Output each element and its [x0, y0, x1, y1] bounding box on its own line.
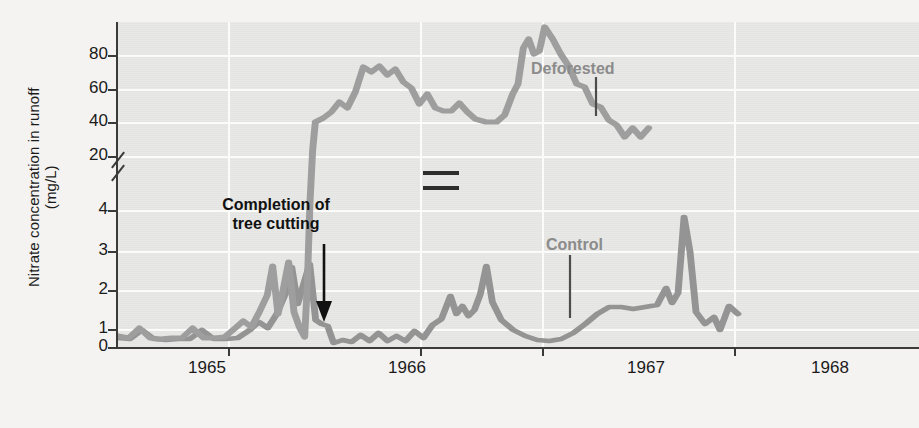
figure-root: Nitrate concentration in runoff (mg/L)	[0, 0, 919, 428]
annotation-layer: Completion of tree cutting Deforested Co…	[0, 0, 919, 428]
annotation-line-2: tree cutting	[232, 215, 319, 232]
annotation-line-1: Completion of	[222, 196, 330, 213]
annotation-completion-of-tree-cutting: Completion of tree cutting	[176, 196, 376, 234]
series-label-control: Control	[546, 236, 603, 254]
series-label-deforested: Deforested	[531, 60, 615, 78]
